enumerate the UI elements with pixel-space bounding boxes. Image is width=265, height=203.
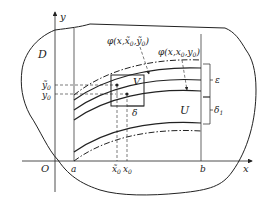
x-tick-x0: x0 <box>123 164 132 175</box>
neighborhood-label-u: U <box>180 104 190 117</box>
box-label-v: V <box>133 76 142 87</box>
y-axis-label: y <box>59 11 66 22</box>
delta1-bracket <box>203 97 210 124</box>
delta-label: δ <box>132 108 137 118</box>
delta1-label: δ1 <box>214 105 223 116</box>
origin-label: O <box>41 163 49 174</box>
leader-main <box>182 60 187 90</box>
diagram: D y x O a x̃0 x0 b ỹ0 y0 φ(x,x̃0,ỹ0) φ(x… <box>0 0 265 203</box>
region-label: D <box>37 48 47 61</box>
x-tick-xtilde: x̃0 <box>112 164 121 175</box>
solution-curve-4 <box>74 122 201 152</box>
lower-tube-bound <box>74 130 201 161</box>
epsilon-label: ε <box>215 75 220 85</box>
x-tick-a: a <box>71 164 76 174</box>
x-tick-b: b <box>200 164 206 174</box>
leader-tilde <box>140 47 149 74</box>
epsilon-bracket <box>203 64 210 97</box>
y-tick-y0: y0 <box>41 90 51 101</box>
x-axis-label: x <box>243 163 249 174</box>
curve-label-tilde: φ(x,x̃0,ỹ0) <box>107 36 149 47</box>
solution-continuity-diagram: D y x O a x̃0 x0 b ỹ0 y0 φ(x,x̃0,ỹ0) φ(x… <box>0 0 265 203</box>
curve-label-main: φ(x,x0,y0) <box>158 47 200 58</box>
